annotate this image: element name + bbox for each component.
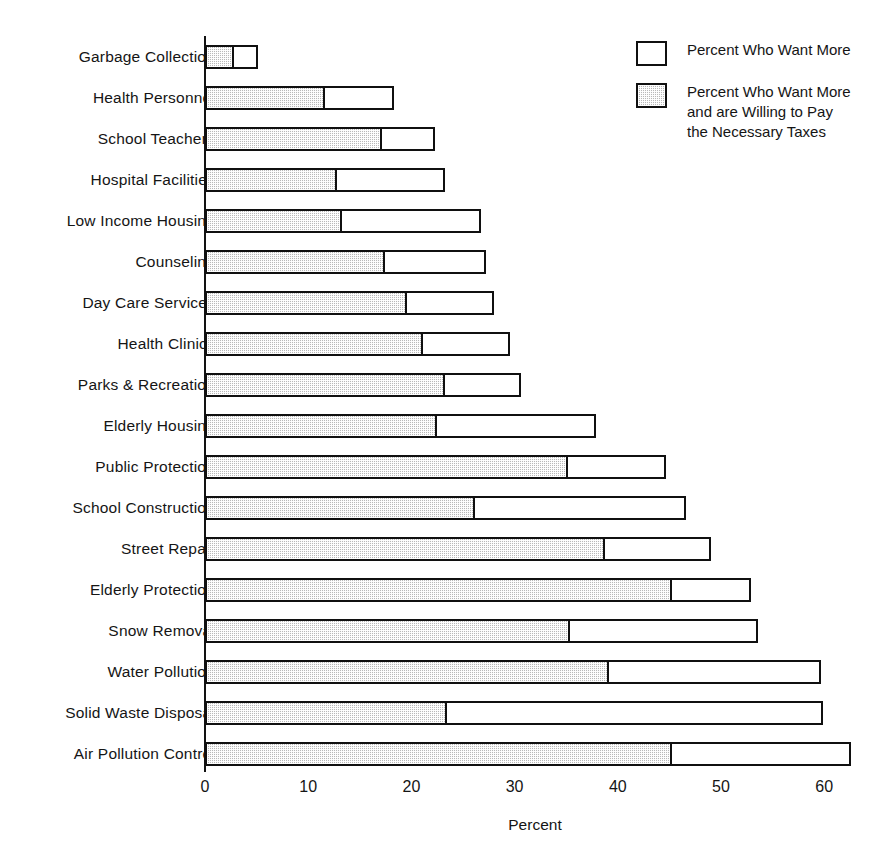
category-label: Public Protection (95, 458, 215, 476)
category-label: Health Clinics (117, 335, 215, 353)
bar-shaded-segment (207, 88, 325, 108)
bar-row: Elderly Protection (0, 569, 885, 610)
bar-total (205, 496, 686, 520)
x-axis-tick-label: 20 (402, 778, 420, 796)
bar-row: Elderly Housing (0, 405, 885, 446)
bar-row: Hospital Facilities (0, 159, 885, 200)
x-axis-tick-label: 30 (506, 778, 524, 796)
bar-row: Health Personnel (0, 77, 885, 118)
category-label: Hospital Facilities (91, 171, 215, 189)
category-label: Water Pollution (107, 663, 215, 681)
bar-total (205, 209, 481, 233)
bar-shaded-segment (207, 211, 342, 231)
category-label: Air Pollution Control (74, 745, 215, 763)
category-label: Day Care Services (82, 294, 215, 312)
category-label: School Teachers (98, 130, 215, 148)
bar-total (205, 742, 851, 766)
bar-shaded-segment (207, 539, 605, 559)
category-label: Garbage Collection (79, 48, 215, 66)
bar-row: Air Pollution Control (0, 733, 885, 774)
bar-row: Counseling (0, 241, 885, 282)
bar-total (205, 332, 510, 356)
bar-row: School Construction (0, 487, 885, 528)
category-label: Elderly Protection (90, 581, 215, 599)
bar-row: Health Clinics (0, 323, 885, 364)
bar-total (205, 701, 823, 725)
category-label: School Construction (72, 499, 215, 517)
bar-total (205, 660, 821, 684)
bar-shaded-segment (207, 703, 447, 723)
bar-total (205, 250, 486, 274)
x-axis-tick-label: 60 (815, 778, 833, 796)
category-label: Street Repair (121, 540, 215, 558)
bar-total (205, 127, 435, 151)
bar-chart: Percent 0102030405060 Percent Who Want M… (0, 0, 885, 852)
bar-total (205, 45, 258, 69)
category-label: Counseling (135, 253, 215, 271)
bar-row: Parks & Recreation (0, 364, 885, 405)
bar-total (205, 578, 751, 602)
x-axis-tick-label: 40 (609, 778, 627, 796)
bar-shaded-segment (207, 375, 445, 395)
bar-row: Garbage Collection (0, 36, 885, 77)
bar-row: Solid Waste Disposal (0, 692, 885, 733)
bar-shaded-segment (207, 498, 475, 518)
category-label: Health Personnel (93, 89, 215, 107)
bar-shaded-segment (207, 252, 385, 272)
bar-shaded-segment (207, 416, 437, 436)
x-axis-tick-label: 10 (299, 778, 317, 796)
x-axis-tick-label: 0 (201, 778, 210, 796)
bar-row: Street Repair (0, 528, 885, 569)
x-axis-tick-label: 50 (712, 778, 730, 796)
bar-row: Water Pollution (0, 651, 885, 692)
bar-row: Public Protection (0, 446, 885, 487)
category-label: Low Income Housing (67, 212, 215, 230)
bar-shaded-segment (207, 129, 382, 149)
category-label: Parks & Recreation (78, 376, 215, 394)
bar-row: Low Income Housing (0, 200, 885, 241)
bar-total (205, 291, 494, 315)
bar-total (205, 86, 394, 110)
bar-shaded-segment (207, 293, 407, 313)
bar-shaded-segment (207, 334, 423, 354)
bar-total (205, 373, 521, 397)
bar-shaded-segment (207, 621, 570, 641)
bar-total (205, 414, 596, 438)
bar-shaded-segment (207, 744, 672, 764)
bar-shaded-segment (207, 170, 337, 190)
bar-row: Day Care Services (0, 282, 885, 323)
bar-shaded-segment (207, 580, 672, 600)
bar-total (205, 537, 711, 561)
bar-total (205, 168, 445, 192)
bar-row: School Teachers (0, 118, 885, 159)
bar-total (205, 619, 758, 643)
category-label: Solid Waste Disposal (65, 704, 215, 722)
category-label: Snow Removal (108, 622, 215, 640)
bar-shaded-segment (207, 662, 609, 682)
category-label: Elderly Housing (103, 417, 215, 435)
x-axis-title: Percent (455, 816, 615, 834)
bar-total (205, 455, 666, 479)
bar-shaded-segment (207, 47, 234, 67)
bar-row: Snow Removal (0, 610, 885, 651)
bar-shaded-segment (207, 457, 568, 477)
